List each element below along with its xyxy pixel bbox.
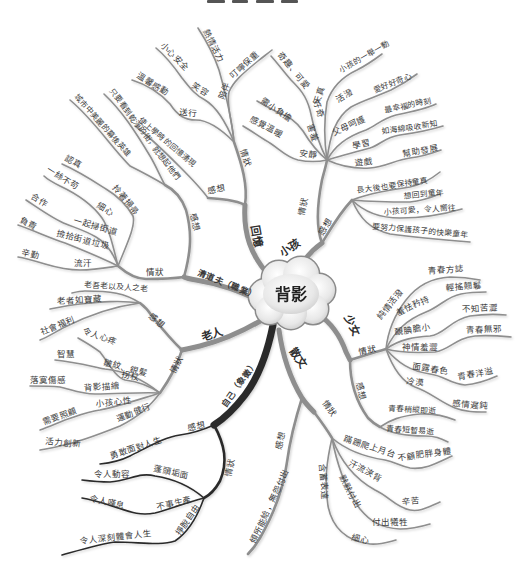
node-label: 不事生產 — [155, 495, 192, 512]
node-label: 不知苦澀 — [462, 302, 498, 314]
branch-child: 小孩 感想 長大後也要保持童真 想回到童年 小孩可愛，令人嚮往 要努力保護孩子的… — [248, 38, 468, 260]
node-label: 背影描繪 — [83, 381, 120, 393]
node-label: 辛苦 — [401, 495, 420, 507]
group-label-reflection: 感想 — [187, 420, 206, 433]
node-label: 需要照顧 — [41, 405, 78, 427]
node-label: 溫馨感動 — [135, 70, 171, 98]
group-label-situation: 情狀 — [146, 267, 164, 277]
node-label: 落寞傷感 — [30, 375, 66, 385]
node-label: 老者如寶藏 — [57, 294, 102, 306]
node-label: 笑容 — [190, 80, 211, 98]
branch-line-sweeper-reflection — [165, 185, 190, 277]
node-label: 小孩的一舉一動 — [337, 38, 390, 75]
node-label: 遊戲 — [354, 156, 373, 168]
node-label: 神情羞澀 — [402, 342, 438, 352]
group-label-reflection: 感想 — [273, 431, 287, 451]
group-label-situation: 情狀 — [320, 398, 339, 418]
node-label: 父母呵護 — [331, 114, 368, 138]
node-label: 令人動容 — [94, 469, 130, 479]
branch-girl: 少女 情狀 純情活潑 青春方誌 羞怯矜持 輕搖翹鬈 靦腆膽小 不知苦澀 神情羞澀… — [341, 264, 502, 437]
node-label: 想回到童年 — [403, 187, 444, 201]
node-label: 社會福利 — [39, 314, 76, 337]
node-label: 青春短暫易逝 — [386, 423, 435, 436]
node-label: 合作 — [29, 191, 50, 209]
node-label: 含蓄表達 — [317, 463, 330, 500]
node-label: 令人嘆息 — [89, 493, 126, 510]
branch-line-prose — [279, 330, 314, 412]
center-label: 背影 — [275, 285, 307, 304]
node-label: 送行 — [179, 107, 198, 118]
node-label: 認真 — [63, 153, 84, 171]
node-label: 害羞 — [305, 123, 320, 143]
branch-label-girl: 少女 — [341, 311, 363, 338]
node-label: 小孩可愛，令人嚮往 — [383, 202, 456, 217]
branch-line-memory-reflection — [208, 198, 245, 205]
group-label-situation: 情狀 — [168, 354, 185, 375]
group-label-situation: 情狀 — [296, 197, 310, 217]
node-label: 付出犧牲 — [372, 517, 408, 527]
node-label: 勇敢面對人生 — [109, 435, 163, 461]
node-label: 傾所能給，無怨付出 — [248, 467, 291, 545]
node-label: 汗流浹背 — [347, 458, 383, 484]
node-label: 靦腆膽小 — [394, 322, 431, 337]
node-label: 拎著掃帚 — [110, 183, 141, 217]
node-label: 感覺溫暖 — [248, 114, 284, 140]
group-label-reflection: 感想 — [207, 183, 226, 196]
title-clipped — [207, 0, 298, 3]
node-label: 蹣跚爬上月台 — [342, 433, 396, 459]
node-label: 輕搖翹鬈 — [445, 280, 482, 293]
node-label: 好奇 — [311, 99, 326, 119]
node-label: 安靜 — [299, 148, 318, 160]
node-label: 活力創新 — [45, 436, 82, 449]
node-label: 智慧 — [57, 349, 75, 359]
node-label: 細心 — [351, 532, 371, 546]
node-label: 愛好好奇心 — [372, 71, 413, 95]
node-label: 青春稍縱即逝 — [388, 403, 436, 415]
node-label: 冷漠 — [406, 376, 425, 388]
group-label-reflection: 感想 — [147, 311, 167, 330]
node-label: 青春方誌 — [427, 264, 464, 276]
node-label: 活潑 — [334, 87, 355, 105]
node-label: 只要看到乾淨的街，就想起他們 — [107, 86, 182, 181]
node-label: 流汗 — [74, 258, 92, 268]
group-label-situation: 情狀 — [358, 344, 377, 357]
node-label: 細心 — [95, 200, 116, 218]
mind-map-canvas: 背影 回憶 情狀 感想 熱情活力 陪伴 叮嚀保重 笑容 小心安全 送行 溫馨感動… — [0, 0, 529, 578]
node-label: 青春無邪 — [466, 324, 502, 335]
node-label: 奇趣、可愛 — [275, 50, 312, 91]
branch-line-self-situation — [204, 425, 225, 498]
group-label-situation: 情狀 — [223, 458, 236, 477]
node-label: 要努力保護孩子的快樂童年 — [372, 221, 469, 239]
node-label: 蓬頭垢面 — [153, 463, 190, 480]
node-label: 熱情活力 — [201, 27, 226, 64]
mind-map: 背影 回憶 情狀 感想 熱情活力 陪伴 叮嚀保重 笑容 小心安全 送行 溫馨感動… — [0, 0, 529, 578]
node-label: 叮嚀保重 — [228, 49, 261, 81]
node-label: 小孩心性 — [95, 395, 132, 409]
